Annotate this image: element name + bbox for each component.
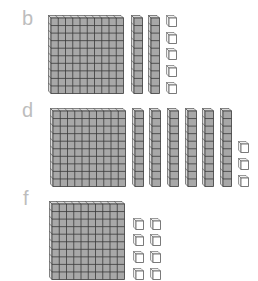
unit-cube-icon xyxy=(238,158,249,170)
hundreds-flat-icon xyxy=(48,15,124,94)
unit-cube-icon xyxy=(166,48,177,60)
tens-rod-icon xyxy=(185,108,197,187)
unit-cube-icon xyxy=(133,251,144,263)
unit-cube-icon xyxy=(166,32,177,44)
unit-cube-icon xyxy=(238,175,249,187)
section-label: d xyxy=(22,100,33,120)
section-label: b xyxy=(22,8,33,28)
unit-cube-icon xyxy=(150,251,161,263)
unit-cube-icon xyxy=(166,65,177,77)
unit-cube-icon xyxy=(238,141,249,153)
section-label: f xyxy=(23,188,29,208)
hundreds-flat-icon xyxy=(50,108,126,187)
tens-rod-icon xyxy=(132,108,144,187)
unit-cube-icon xyxy=(150,268,161,280)
unit-cube-icon xyxy=(133,218,144,230)
tens-rod-icon xyxy=(167,108,179,187)
unit-cube-icon xyxy=(150,234,161,246)
hundreds-flat-icon xyxy=(49,201,125,280)
unit-cube-icon xyxy=(166,82,177,94)
unit-cube-icon xyxy=(166,15,177,27)
tens-rod-icon xyxy=(149,108,161,187)
unit-cube-icon xyxy=(133,234,144,246)
tens-rod-icon xyxy=(202,108,214,187)
tens-rod-icon xyxy=(131,15,143,94)
tens-rod-icon xyxy=(220,108,232,187)
unit-cube-icon xyxy=(150,218,161,230)
tens-rod-icon xyxy=(148,15,160,94)
unit-cube-icon xyxy=(133,268,144,280)
